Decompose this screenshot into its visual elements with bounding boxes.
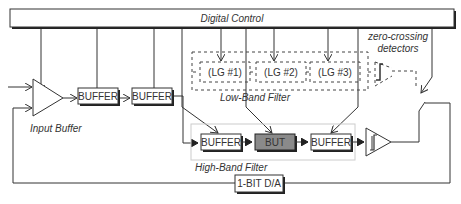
buffer-2: BUFFER: [132, 88, 174, 106]
dac-block: 1-BIT D/A: [235, 175, 285, 194]
control-lines: [41, 29, 432, 133]
zero-crossing-label-1: zero-crossing: [367, 31, 428, 42]
buffer-1: BUFFER: [78, 88, 120, 106]
hb-buffer-2: BUFFER: [311, 134, 353, 152]
zero-crossing-detector: zero-crossing detectors: [367, 31, 428, 88]
hb-buffer-1: BUFFER: [201, 134, 243, 152]
svg-text:BUT: BUT: [265, 137, 285, 148]
lg3-label: (LG #3): [318, 67, 352, 78]
lg2-label: (LG #2): [264, 67, 298, 78]
svg-text:BUFFER: BUFFER: [78, 91, 118, 102]
low-band-label: Low-Band Filter: [220, 92, 291, 103]
svg-text:BUFFER: BUFFER: [201, 137, 241, 148]
input-buffer-label: Input Buffer: [30, 123, 82, 134]
but-block: BUT: [255, 134, 297, 152]
digital-control-label: Digital Control: [201, 13, 265, 24]
digital-control-bar: Digital Control: [10, 9, 456, 29]
low-band-filter: (LG #1) (LG #2) (LG #3) Low-Band Filter: [192, 52, 368, 103]
lg1-label: (LG #1): [208, 67, 242, 78]
svg-text:BUFFER: BUFFER: [311, 137, 351, 148]
svg-text:BUFFER: BUFFER: [132, 91, 172, 102]
high-band-label: High-Band Filter: [195, 162, 268, 173]
dac-label: 1-BIT D/A: [237, 178, 281, 189]
input-buffer-amp: Input Buffer: [8, 79, 82, 134]
zero-crossing-label-2: detectors: [377, 43, 418, 54]
diagram-canvas: Digital Control Input Buffer BUFFER BU: [0, 0, 461, 204]
comparator: [366, 128, 391, 156]
